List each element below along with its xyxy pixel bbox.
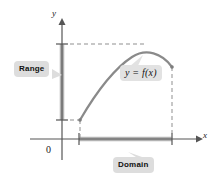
function-domain-range-figure: y x 0 Range Domain y = f(x) (0, 0, 216, 181)
y-axis-label: y (52, 8, 56, 18)
function-curve (80, 52, 172, 120)
domain-callout-label: Domain (113, 157, 154, 173)
curve-start-point (78, 118, 82, 122)
graph-canvas (0, 0, 216, 181)
x-axis-label: x (203, 130, 207, 140)
y-axis-arrow-icon (59, 18, 66, 25)
origin-label: 0 (46, 144, 51, 155)
function-equation-label: y = f(x) (120, 65, 162, 81)
curve-end-point (170, 65, 174, 69)
range-callout-label: Range (14, 61, 49, 77)
x-axis-arrow-icon (196, 136, 203, 143)
